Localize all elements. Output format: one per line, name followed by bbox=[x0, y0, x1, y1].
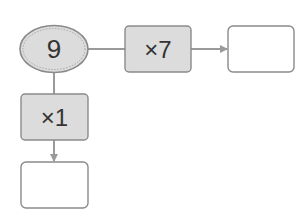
start-node: 9 bbox=[20, 26, 88, 73]
operation-label: ×1 bbox=[41, 104, 68, 131]
operation-node-times7: ×7 bbox=[125, 26, 191, 72]
flow-diagram: 9 ×7 ×1 bbox=[0, 0, 308, 221]
operation-label: ×7 bbox=[144, 36, 171, 63]
result-box-right[interactable] bbox=[228, 26, 294, 72]
operation-node-times1: ×1 bbox=[21, 94, 88, 140]
start-value: 9 bbox=[47, 34, 61, 64]
result-box-bottom[interactable] bbox=[21, 162, 88, 208]
